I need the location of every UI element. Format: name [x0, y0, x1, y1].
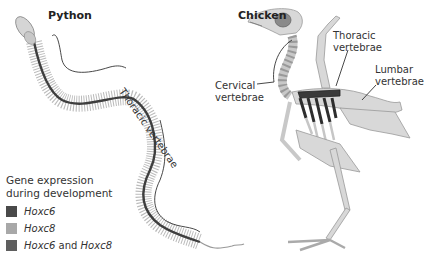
legend: Gene expression during development Hoxc6…	[6, 174, 112, 251]
legend-item-both: Hoxc6 and Hoxc8	[6, 240, 112, 251]
chicken-lumbar-label: Lumbar vertebrae	[375, 64, 424, 88]
legend-item-hoxc8: Hoxc8	[6, 223, 112, 234]
python-title: Python	[48, 9, 92, 22]
chicken-title: Chicken	[238, 9, 287, 22]
chicken-skeleton	[248, 9, 410, 250]
chicken-thoracic-label: Thoracic vertebrae	[333, 30, 382, 54]
legend-item-hoxc6: Hoxc6	[6, 206, 112, 217]
legend-swatch-hoxc6	[6, 206, 17, 217]
chicken-cervical-label: Cervical vertebrae	[215, 80, 264, 104]
legend-title: Gene expression during development	[6, 174, 112, 200]
legend-swatch-hoxc8	[6, 223, 17, 234]
legend-swatch-both	[6, 240, 17, 251]
